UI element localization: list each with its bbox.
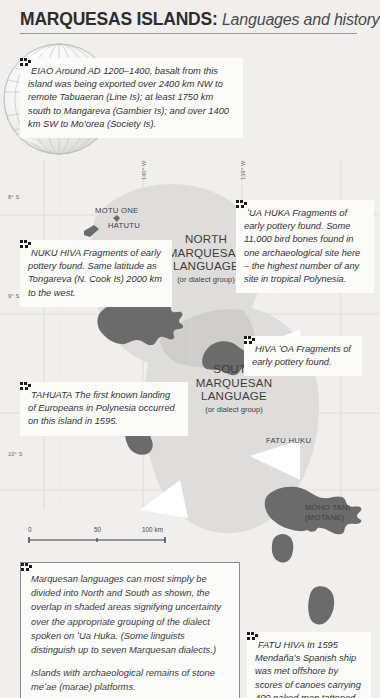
south-line-2: MARQUESAN bbox=[196, 376, 273, 389]
north-line-3: LANGUAGE bbox=[173, 259, 239, 272]
island-label-motu-one: MOTU ONE bbox=[95, 206, 138, 215]
callout-eiao-text: EIAO Around AD 1200–1400, basalt from th… bbox=[28, 66, 229, 129]
scale-tick-100: 100 km bbox=[142, 526, 163, 533]
latitude-label-9s: 9° S bbox=[8, 293, 19, 299]
longitude-label-139w: 139° W bbox=[240, 160, 246, 180]
scale-tick-50: 50 bbox=[94, 526, 101, 533]
island-label-hatutu: HATUTU bbox=[108, 221, 140, 230]
legend-paragraph-1: Marquesan languages can most simply be d… bbox=[31, 572, 229, 657]
scale-bar-graphic bbox=[28, 537, 170, 543]
callout-fatu-hiva: FATU HIVA In 1595 Mendaña’s Spanish shi… bbox=[247, 632, 371, 698]
scale-bar: 0 50 100 km bbox=[28, 526, 170, 548]
page-title-bold: MARQUESAS ISLANDS: bbox=[20, 9, 218, 29]
callout-tahuata: TAHUATA The first known landing of Europ… bbox=[20, 382, 188, 436]
scale-tick-0: 0 bbox=[28, 526, 32, 533]
south-line-3: LANGUAGE bbox=[201, 389, 267, 402]
page-title-italic: Languages and history bbox=[218, 11, 380, 28]
south-sub: (or dialect group) bbox=[178, 404, 290, 416]
island-label-motane: (MOTANE) bbox=[305, 513, 344, 523]
north-line-1: NORTH bbox=[185, 232, 227, 245]
callout-ua-huka-text: ʻUA HUKA Fragments of early pottery foun… bbox=[244, 208, 360, 284]
callout-ua-huka: ʻUA HUKA Fragments of early pottery foun… bbox=[236, 200, 374, 293]
legend-paragraph-2-row: Islands with archaeological remains of s… bbox=[31, 666, 229, 694]
page-title: MARQUESAS ISLANDS: Languages and history bbox=[20, 9, 380, 30]
island-label-moho-tani: MOHO TANI bbox=[305, 503, 350, 513]
longitude-label-140w: 140° W bbox=[141, 160, 147, 180]
island-label-fatu-huku: FATU HUKU bbox=[266, 436, 311, 445]
latitude-label-10s: 10° S bbox=[8, 451, 23, 457]
legend-box: Marquesan languages can most simply be d… bbox=[20, 562, 240, 698]
map-canvas: 8° S 9° S 10° S 140° W 139° W MOTU ONE H… bbox=[0, 40, 379, 698]
callout-hiva-oa-text: HIVA ʻOA Fragments of early pottery foun… bbox=[252, 344, 351, 367]
callout-fatu-hiva-text: FATU HIVA In 1595 Mendaña’s Spanish shi… bbox=[255, 640, 361, 698]
island-nuku-hiva bbox=[97, 302, 183, 345]
latitude-label-8s: 8° S bbox=[8, 194, 19, 200]
legend-paragraph-2: Islands with archaeological remains of s… bbox=[31, 667, 215, 692]
north-line-2: MARQUESAN bbox=[168, 246, 245, 259]
island-tahuata bbox=[272, 534, 294, 563]
callout-eiao: EIAO Around AD 1200–1400, basalt from th… bbox=[20, 58, 243, 138]
callout-tahuata-text: TAHUATA The first known landing of Europ… bbox=[28, 390, 175, 426]
title-divider bbox=[20, 33, 357, 34]
callout-nuku-hiva-text: NUKU HIVA Fragments of early pottery fou… bbox=[28, 248, 162, 298]
callout-nuku-hiva: NUKU HIVA Fragments of early pottery fou… bbox=[20, 240, 172, 307]
header: MARQUESAS ISLANDS: Languages and history bbox=[0, 0, 379, 40]
callout-hiva-oa: HIVA ʻOA Fragments of early pottery foun… bbox=[244, 336, 362, 376]
